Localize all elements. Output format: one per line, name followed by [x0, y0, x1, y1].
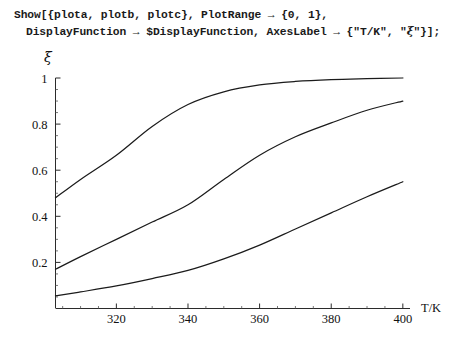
code-line-2-suffix: "}];: [413, 26, 440, 38]
x-tick-label: 380: [322, 312, 341, 326]
y-tick-label: 0.6: [32, 164, 48, 178]
notebook-input-cell[interactable]: Show[{plota, plotb, plotc}, PlotRange → …: [0, 0, 468, 40]
code-line-2: DisplayFunction → $DisplayFunction, Axes…: [0, 23, 468, 40]
y-tick-label: 1: [41, 72, 47, 86]
x-tick-label: 340: [179, 312, 198, 326]
chart-series-plota: [56, 78, 403, 198]
plot-output-cell[interactable]: 320340360380400 0.20.40.60.81 T/K ξ: [0, 44, 468, 337]
y-axis-label: ξ: [44, 49, 53, 65]
chart-series-plotc: [56, 182, 403, 296]
code-line-2-prefix: DisplayFunction → $DisplayFunction, Axes…: [26, 26, 407, 38]
x-tick-label: 360: [250, 312, 269, 326]
y-tick-label: 0.2: [32, 256, 48, 270]
y-tick-label: 0.8: [32, 118, 48, 132]
x-axis-label: T/K: [421, 301, 441, 315]
x-tick-label: 320: [107, 312, 126, 326]
chart-series-plotb: [56, 101, 403, 269]
x-axis-tick-labels: 320340360380400: [107, 312, 412, 326]
line-chart: 320340360380400 0.20.40.60.81 T/K ξ: [0, 44, 468, 337]
code-line-1: Show[{plota, plotb, plotc}, PlotRange → …: [0, 7, 468, 23]
y-axis-tick-labels: 0.20.40.60.81: [32, 72, 48, 270]
x-tick-label: 400: [393, 312, 412, 326]
chart-series-group: [56, 78, 403, 296]
y-axis-ticks: [56, 78, 61, 297]
y-tick-label: 0.4: [32, 210, 48, 224]
x-axis-ticks: [63, 304, 403, 309]
